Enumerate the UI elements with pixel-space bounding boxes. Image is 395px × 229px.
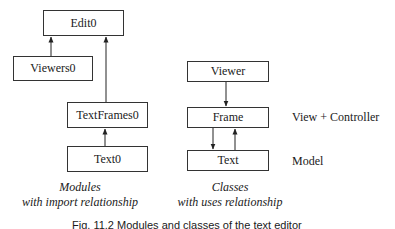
classes-caption-line2: with uses relationship <box>165 195 295 210</box>
modules-caption-line1: Modules <box>10 180 150 195</box>
module-edit0: Edit0 <box>43 10 124 36</box>
layer-view-controller-label: View + Controller <box>292 110 379 125</box>
modules-caption-line2: with import relationship <box>10 195 150 210</box>
layer-model-label: Model <box>292 154 323 169</box>
module-text0: Text0 <box>67 146 148 172</box>
class-text-label: Text <box>217 153 238 168</box>
module-viewers0-label: Viewers0 <box>30 61 75 76</box>
class-text: Text <box>187 150 269 171</box>
class-frame-label: Frame <box>213 110 244 125</box>
module-textframes0: TextFrames0 <box>67 102 148 128</box>
figure-caption: Fig. 11.2 Modules and classes of the tex… <box>72 219 302 229</box>
class-frame: Frame <box>187 107 269 128</box>
classes-caption: Classes with uses relationship <box>165 180 295 210</box>
modules-caption: Modules with import relationship <box>10 180 150 210</box>
module-textframes0-label: TextFrames0 <box>76 108 138 123</box>
module-edit0-label: Edit0 <box>71 16 97 31</box>
classes-caption-line1: Classes <box>165 180 295 195</box>
module-viewers0: Viewers0 <box>13 56 93 81</box>
class-viewer: Viewer <box>187 61 269 82</box>
class-viewer-label: Viewer <box>211 64 246 79</box>
module-text0-label: Text0 <box>94 152 121 167</box>
